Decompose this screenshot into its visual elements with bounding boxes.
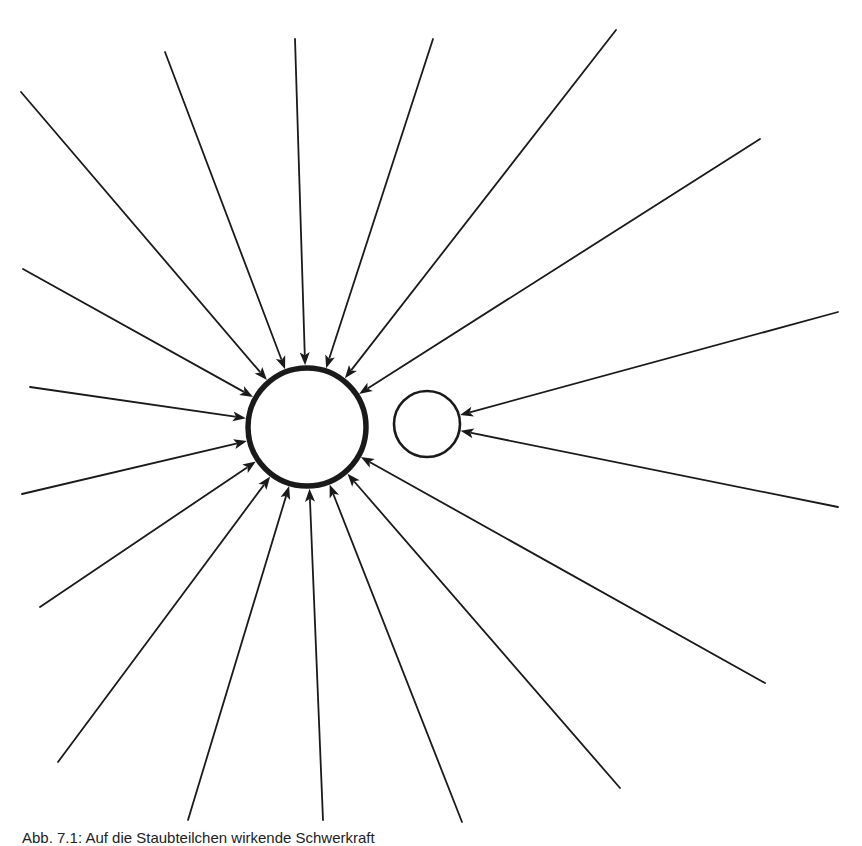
force-line	[310, 500, 323, 820]
arrowhead-icon	[239, 386, 253, 397]
force-line	[371, 462, 765, 683]
force-line	[40, 468, 247, 607]
force-line	[22, 444, 236, 494]
arrowhead-icon	[242, 462, 256, 473]
force-line	[23, 269, 243, 392]
force-line	[368, 139, 760, 388]
arrows-toward-small-particle	[460, 312, 838, 507]
force-line	[295, 39, 305, 354]
force-line	[334, 495, 462, 822]
large-particle-circle	[248, 368, 366, 486]
arrowhead-icon	[359, 383, 373, 394]
force-line	[352, 30, 616, 370]
force-line	[329, 39, 433, 358]
force-line	[30, 387, 235, 417]
figure-caption: Abb. 7.1: Auf die Staubteilchen wirkende…	[22, 830, 375, 845]
arrowhead-icon	[361, 457, 375, 468]
arrowhead-icon	[345, 365, 357, 378]
force-line	[21, 92, 260, 372]
force-line	[58, 485, 264, 762]
arrowhead-icon	[258, 477, 270, 490]
force-line	[471, 433, 838, 507]
force-line	[165, 52, 281, 359]
small-particle-circle	[394, 391, 460, 457]
force-line	[188, 497, 286, 820]
force-line	[471, 312, 838, 412]
